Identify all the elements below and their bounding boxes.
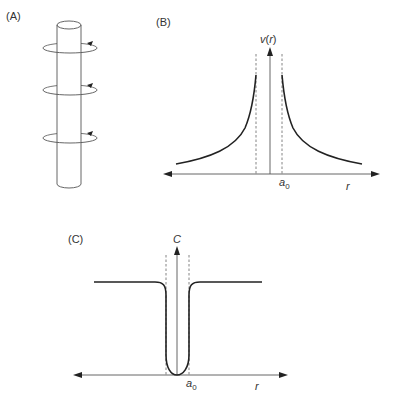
figure-canvas: (A) (B) [0,0,393,407]
b-core-radius-label: a0 [279,176,290,191]
b-y-axis-arrow-icon [267,47,273,56]
panel-a-label: (A) [6,10,21,22]
b-x-axis-left-arrow-icon [163,171,172,177]
c-x-axis-right-arrow-icon [279,372,288,378]
panel-b-label: (B) [156,16,171,28]
b-x-axis-right-arrow-icon [371,171,380,177]
cylinder [43,21,97,188]
panel-a: (A) [6,10,97,188]
b-x-axis-label: r [346,180,351,192]
c-core-radius-label: a0 [186,377,197,392]
c-concentration-curve [94,282,262,375]
panel-b: (B) v(r) a0 r [156,16,380,192]
c-x-axis-left-arrow-icon [73,372,82,378]
c-y-axis-arrow-icon [174,246,180,255]
b-y-axis-label: v(r) [260,33,277,45]
b-velocity-curve-left [176,75,256,164]
panel-c: (C) C a0 r [68,233,288,392]
c-x-axis-label: r [255,380,260,392]
panel-c-label: (C) [68,233,83,245]
b-velocity-curve-right [282,75,362,164]
c-y-axis-label: C [173,233,181,245]
